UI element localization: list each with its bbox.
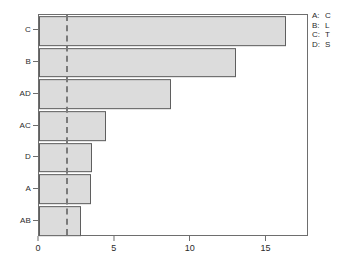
legend-row: D:S xyxy=(312,40,345,50)
bar-row xyxy=(39,15,307,47)
x-tick-mark xyxy=(189,236,190,241)
bar-ab xyxy=(39,206,81,236)
bar-c xyxy=(39,16,286,46)
legend-value: S xyxy=(325,40,345,50)
bar-row xyxy=(39,205,307,237)
reference-line xyxy=(66,15,68,235)
x-tick: 10 xyxy=(185,236,195,253)
bar-a xyxy=(39,175,91,205)
legend-value: C xyxy=(325,11,345,21)
legend-key: D: xyxy=(312,40,325,50)
y-tick-label: A xyxy=(25,184,33,193)
y-axis: CBADACDAAB xyxy=(0,14,38,236)
y-tick-label: B xyxy=(25,57,33,66)
bar-b xyxy=(39,48,236,78)
legend: A:CB:LC:TD:S xyxy=(312,11,345,49)
y-tick-label: AB xyxy=(20,216,33,225)
y-tick-label: AD xyxy=(19,89,33,98)
legend-key: B: xyxy=(312,21,325,31)
x-tick-mark xyxy=(265,236,266,241)
legend-row: C:T xyxy=(312,30,345,40)
y-tick-label: C xyxy=(25,25,33,34)
legend-key: C: xyxy=(312,30,325,40)
x-tick-label: 0 xyxy=(35,243,40,253)
x-tick-mark xyxy=(113,236,114,241)
y-tick-label: AC xyxy=(19,121,33,130)
x-tick-label: 10 xyxy=(185,243,195,253)
bar-row xyxy=(39,47,307,79)
x-axis: 051015 xyxy=(38,236,308,260)
y-tick-label: D xyxy=(25,152,33,161)
bars-layer xyxy=(39,15,307,235)
legend-row: B:L xyxy=(312,21,345,31)
bar-row xyxy=(39,78,307,110)
x-tick-label: 5 xyxy=(111,243,116,253)
legend-key: A: xyxy=(312,11,325,21)
x-tick-label: 15 xyxy=(261,243,271,253)
x-tick: 15 xyxy=(261,236,271,253)
legend-value: T xyxy=(325,30,345,40)
bar-ad xyxy=(39,79,171,109)
x-tick: 0 xyxy=(35,236,40,253)
x-tick: 5 xyxy=(111,236,116,253)
bar-ac xyxy=(39,111,106,141)
bar-row xyxy=(39,110,307,142)
legend-value: L xyxy=(325,21,345,31)
bar-row xyxy=(39,174,307,206)
pareto-chart: CBADACDAAB 051015 A:CB:LC:TD:S xyxy=(0,0,345,266)
bar-row xyxy=(39,142,307,174)
legend-row: A:C xyxy=(312,11,345,21)
x-tick-mark xyxy=(37,236,38,241)
plot-area xyxy=(38,14,308,236)
